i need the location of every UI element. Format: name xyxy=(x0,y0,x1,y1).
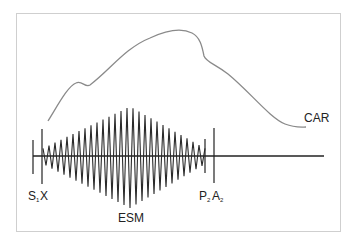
label-s1: S1 xyxy=(28,190,39,203)
phonocardiogram-diagram xyxy=(0,0,354,244)
label-x: X xyxy=(40,190,48,202)
label-esm: ESM xyxy=(118,212,144,224)
label-car: CAR xyxy=(304,112,329,124)
label-a2: A2 xyxy=(212,190,223,203)
label-p2: P2 xyxy=(199,190,210,203)
carotid-pulse-curve xyxy=(48,30,306,127)
ejection-systolic-murmur-waveform xyxy=(43,108,205,208)
